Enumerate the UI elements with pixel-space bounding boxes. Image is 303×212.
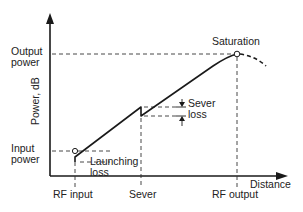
sever-loss-arrows bbox=[176, 99, 186, 126]
sever-label: Sever bbox=[129, 189, 156, 200]
rf-input-label: RF input bbox=[53, 189, 93, 200]
arrow-up-icon bbox=[179, 116, 185, 121]
launching-loss-label: Launching loss bbox=[90, 156, 138, 178]
arrow-down-icon bbox=[179, 102, 185, 107]
input-point-icon bbox=[72, 148, 77, 153]
y-axis-label: Power, dB bbox=[29, 77, 41, 125]
saturation-point-icon bbox=[234, 51, 240, 57]
reference-lines bbox=[52, 54, 237, 188]
rf-output-label: RF output bbox=[212, 189, 258, 200]
y-axis-arrow-icon bbox=[46, 13, 54, 24]
x-axis-label: Distance bbox=[250, 179, 291, 190]
tube-power-diagram: Output power Input power Power, dB Satur… bbox=[0, 0, 303, 212]
input-power-label: Input power bbox=[11, 143, 40, 165]
saturation-label: Saturation bbox=[212, 36, 260, 47]
y-axis bbox=[46, 13, 54, 176]
output-power-label: Output power bbox=[11, 46, 43, 68]
sever-loss-label: Sever loss bbox=[188, 98, 215, 120]
